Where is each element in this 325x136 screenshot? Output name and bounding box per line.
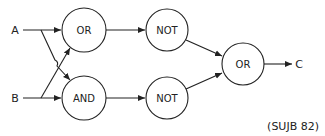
gate-not-bottom: NOT [146, 77, 188, 119]
gate-not-top: NOT [146, 9, 188, 51]
gate-and: AND [62, 76, 106, 120]
logic-circuit-diagram: A B OR AND NOT NOT OR C [0, 0, 325, 136]
gate-or-final-label: OR [236, 59, 251, 70]
wire-not-bottom-to-or [186, 73, 222, 89]
gate-or-top-label: OR [77, 25, 92, 36]
input-b-label: B [11, 92, 19, 105]
gate-or-top: OR [62, 8, 106, 52]
input-a-label: A [11, 24, 19, 37]
source-citation: (SUJB 82) [267, 120, 319, 133]
gate-and-label: AND [73, 93, 95, 104]
gate-not-top-label: NOT [156, 25, 178, 36]
gate-or-final: OR [222, 43, 264, 85]
output-c-label: C [295, 58, 303, 71]
gate-not-bottom-label: NOT [156, 93, 178, 104]
wire-not-top-to-or [186, 40, 222, 56]
